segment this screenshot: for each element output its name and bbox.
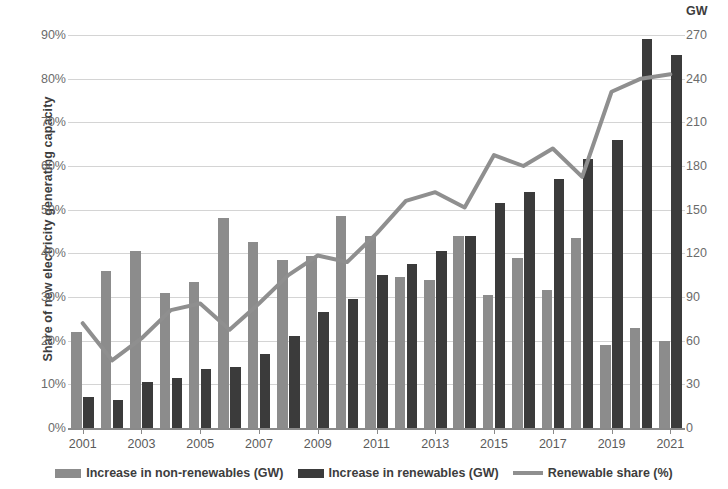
- x-axis-tick-label: 2005: [186, 437, 214, 451]
- legend-line-swatch-icon: [513, 471, 543, 475]
- y2-axis-tick-label: 30: [686, 377, 728, 391]
- x-axis-tick-label: 2017: [539, 437, 567, 451]
- chart-container: Share of new electricity generating capa…: [0, 0, 728, 489]
- legend-item[interactable]: Increase in renewables (GW): [298, 466, 499, 480]
- y-axis-tick-label: 70%: [22, 115, 66, 129]
- legend-item-label: Renewable share (%): [548, 466, 673, 480]
- legend-item-label: Increase in non-renewables (GW): [86, 466, 283, 480]
- x-axis-tick-label: 2009: [304, 437, 332, 451]
- y-axis-tick-label: 50%: [22, 203, 66, 217]
- y2-axis-tick-label: 210: [686, 115, 728, 129]
- x-axis-tickmark: [141, 428, 142, 434]
- y2-axis-tick-label: 120: [686, 246, 728, 260]
- y-axis-tick-label: 20%: [22, 334, 66, 348]
- y2-axis-tick-label: 150: [686, 203, 728, 217]
- x-axis-tickmark: [435, 428, 436, 434]
- x-axis-tick-label: 2003: [128, 437, 156, 451]
- y-axis-tick-label: 80%: [22, 72, 66, 86]
- x-axis-tick-label: 2021: [656, 437, 684, 451]
- x-axis-tickmark: [259, 428, 260, 434]
- y2-axis-tick-label: 180: [686, 159, 728, 173]
- x-axis-tickmark: [200, 428, 201, 434]
- y-axis-tick-label: 40%: [22, 246, 66, 260]
- y2-axis-tick-label: 240: [686, 72, 728, 86]
- x-axis-tick-label: 2001: [69, 437, 97, 451]
- y2-axis-tick-label: 0: [686, 421, 728, 435]
- y-axis-tick-label: 10%: [22, 377, 66, 391]
- x-axis-tickmark: [612, 428, 613, 434]
- x-axis-tick-label: 2011: [363, 437, 390, 451]
- x-axis-tick-label: 2019: [598, 437, 626, 451]
- y2-axis-tick-label: 90: [686, 290, 728, 304]
- x-axis-tickmark: [318, 428, 319, 434]
- y-axis-tick-label: 0%: [22, 421, 66, 435]
- legend-item-label: Increase in renewables (GW): [329, 466, 499, 480]
- legend-bar-swatch-icon: [55, 469, 81, 478]
- x-axis-tick-label: 2015: [480, 437, 508, 451]
- x-axis-tickmark: [553, 428, 554, 434]
- x-axis-tick-label: 2007: [245, 437, 273, 451]
- y-axis-tick-label: 90%: [22, 28, 66, 42]
- y-axis-tick-label: 30%: [22, 290, 66, 304]
- x-axis-tickmark: [494, 428, 495, 434]
- x-axis: 2001200320052007200920112013201520172019…: [68, 428, 685, 458]
- x-axis-tickmark: [377, 428, 378, 434]
- y-axis-right: 0306090120150180210240270: [686, 0, 728, 489]
- renewable-share-line: [68, 35, 685, 428]
- y2-axis-tick-label: 270: [686, 28, 728, 42]
- x-axis-tickmark: [83, 428, 84, 434]
- plot-area: [68, 35, 685, 428]
- x-axis-tick-label: 2013: [421, 437, 449, 451]
- y2-axis-tick-label: 60: [686, 334, 728, 348]
- chart-legend: Increase in non-renewables (GW)Increase …: [0, 462, 728, 484]
- y-axis-tick-label: 60%: [22, 159, 66, 173]
- legend-item[interactable]: Renewable share (%): [513, 466, 673, 480]
- legend-item[interactable]: Increase in non-renewables (GW): [55, 466, 283, 480]
- x-axis-tickmark: [670, 428, 671, 434]
- legend-bar-swatch-icon: [298, 469, 324, 478]
- y-axis-left: 0%10%20%30%40%50%60%70%80%90%: [16, 0, 66, 489]
